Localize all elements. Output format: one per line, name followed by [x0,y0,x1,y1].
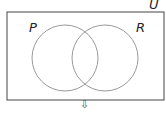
venn-diagram [0,0,166,114]
down-arrow-icon: ⇩ [80,98,89,111]
set-p-label: P [29,20,37,35]
universe-label: U [149,0,159,12]
set-r-circle [72,25,138,91]
set-p-circle [32,25,98,91]
set-r-label: R [136,20,145,35]
